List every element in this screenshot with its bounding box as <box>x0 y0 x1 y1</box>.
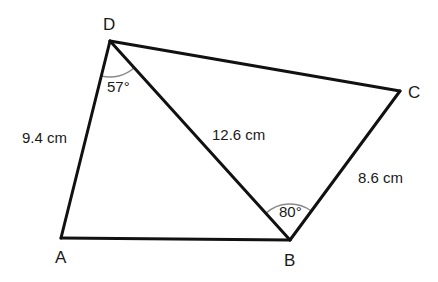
angle-label-b: 80° <box>279 203 302 220</box>
side-length-cb: 8.6 cm <box>358 169 403 186</box>
angle-arc-d <box>101 68 134 77</box>
angle-label-d: 57° <box>107 78 130 95</box>
side-ba <box>61 238 290 240</box>
vertex-label-a: A <box>55 248 67 267</box>
diagonal-length-db: 12.6 cm <box>212 126 265 143</box>
vertex-label-b: B <box>284 251 295 270</box>
side-cb <box>290 91 400 240</box>
vertex-label-d: D <box>103 15 115 34</box>
vertex-label-c: C <box>408 83 420 102</box>
side-dc <box>110 41 400 91</box>
side-ad <box>61 41 110 238</box>
quadrilateral-diagram: D C A B 9.4 cm 12.6 cm 8.6 cm 57° 80° <box>0 0 438 282</box>
side-length-ad: 9.4 cm <box>22 129 67 146</box>
